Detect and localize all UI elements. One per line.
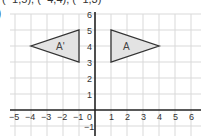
y-tick: 6 (87, 10, 92, 20)
x-tick: 0 (87, 112, 92, 122)
x-tick: −4 (25, 112, 35, 122)
x-tick: 6 (189, 112, 194, 122)
x-tick: 4 (157, 112, 162, 122)
triangle-a-prime-label: A' (56, 41, 65, 52)
y-tick: 5 (87, 26, 92, 36)
x-tick: 5 (173, 112, 178, 122)
y-tick: 1 (87, 90, 92, 100)
x-tick: −5 (9, 112, 19, 122)
x-tick: −2 (57, 112, 67, 122)
x-tick: 1 (109, 112, 114, 122)
triangle-a-prime (31, 30, 79, 62)
triangle-a-label: A (123, 41, 130, 52)
x-tick: −3 (41, 112, 51, 122)
triangle-a (111, 30, 159, 62)
x-tick: 2 (125, 112, 130, 122)
y-tick: 3 (87, 58, 92, 68)
x-tick: 3 (141, 112, 146, 122)
y-tick: 2 (87, 74, 92, 84)
x-tick: −1 (73, 112, 83, 122)
y-tick: −1 (84, 122, 94, 132)
y-tick: 4 (87, 42, 92, 52)
coordinate-plane: A' A −5 −4 −3 −2 −1 0 1 2 3 4 5 6 6 5 4 … (0, 0, 201, 136)
